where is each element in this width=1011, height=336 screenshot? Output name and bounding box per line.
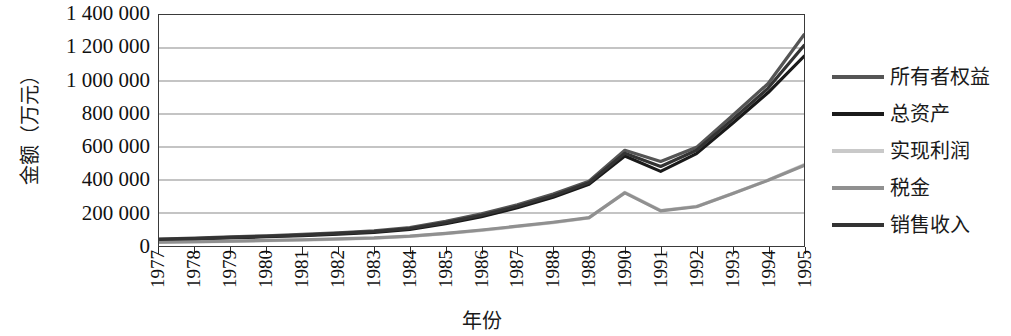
- legend-label: 总资产: [890, 104, 950, 124]
- x-axis-tick-label: 1993: [723, 243, 742, 295]
- x-axis-tick-label: 1980: [256, 243, 275, 295]
- y-axis-tick-label: 1 000 000: [24, 70, 150, 91]
- y-axis-tick-label: 600 000: [24, 136, 150, 157]
- x-axis-tick-label: 1990: [615, 243, 634, 295]
- x-axis-tick-label: 1981: [292, 243, 311, 295]
- x-axis-tick-label: 1994: [759, 243, 778, 295]
- legend-swatch: [832, 149, 884, 153]
- legend-swatch: [832, 186, 884, 190]
- x-axis-tick-label: 1985: [436, 243, 455, 295]
- x-axis-tick-label: 1986: [472, 243, 491, 295]
- legend-swatch: [832, 112, 884, 116]
- legend-item: 税金: [832, 169, 1011, 206]
- legend-item: 所有者权益: [832, 58, 1011, 95]
- x-axis-tick-label: 1982: [328, 243, 347, 295]
- chart-legend: 所有者权益总资产实现利润税金销售收入: [832, 58, 1011, 243]
- x-axis-tick-label: 1979: [220, 243, 239, 295]
- y-axis-tick-label: 1 400 000: [24, 3, 150, 24]
- plot-area: [158, 14, 805, 247]
- x-axis-tick-label: 1988: [543, 243, 562, 295]
- x-axis-title: 年份: [158, 305, 805, 334]
- legend-label: 销售收入: [890, 215, 970, 235]
- y-axis-tick-label: 200 000: [24, 203, 150, 224]
- x-axis-tick-label: 1991: [651, 243, 670, 295]
- x-axis-tick-label: 1983: [364, 243, 383, 295]
- plot-svg: [159, 15, 804, 246]
- y-axis-tick-label: 1 200 000: [24, 36, 150, 57]
- x-axis-tick-label: 1977: [148, 243, 167, 295]
- legend-label: 所有者权益: [890, 67, 990, 87]
- y-axis-tick-label: 800 000: [24, 103, 150, 124]
- y-axis-tick-labels: 0200 000400 000600 000800 0001 000 0001 …: [24, 0, 150, 336]
- series-line: [159, 46, 804, 240]
- legend-item: 销售收入: [832, 206, 1011, 243]
- x-axis-tick-label: 1992: [687, 243, 706, 295]
- x-axis-tick-label: 1978: [184, 243, 203, 295]
- line-chart: 金额（万元） 0200 000400 000600 000800 0001 00…: [0, 0, 1011, 336]
- legend-swatch: [832, 75, 884, 79]
- x-axis-tick-label: 1984: [400, 243, 419, 295]
- legend-swatch: [832, 223, 884, 227]
- series-line: [159, 165, 804, 242]
- y-axis-tick-label: 400 000: [24, 169, 150, 190]
- legend-item: 实现利润: [832, 132, 1011, 169]
- x-axis-tick-label: 1989: [579, 243, 598, 295]
- legend-label: 税金: [890, 178, 930, 198]
- series-line: [159, 35, 804, 239]
- legend-item: 总资产: [832, 95, 1011, 132]
- x-axis-tick-label: 1995: [795, 243, 814, 295]
- x-axis-tick-labels: 1977197819791980198119821983198419851986…: [158, 250, 805, 312]
- legend-label: 实现利润: [890, 141, 970, 161]
- x-axis-tick-label: 1987: [507, 243, 526, 295]
- y-axis-tick-label: 0: [24, 236, 150, 257]
